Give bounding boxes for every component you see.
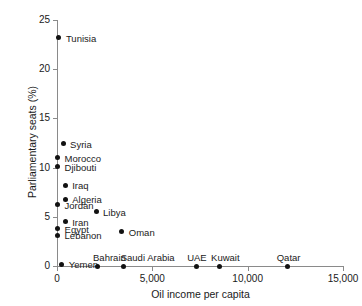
y-tick-mark (53, 20, 57, 21)
x-tick-label: 0 (17, 273, 97, 285)
data-point (194, 264, 199, 269)
y-tick-label: 25 (22, 15, 50, 25)
x-tick-label: 15,000 (303, 273, 362, 285)
data-point (55, 226, 60, 231)
data-point (119, 229, 124, 234)
data-point-label: Saudi Arabia (121, 253, 175, 263)
data-point-label: Kuwait (211, 253, 240, 263)
scatter-chart: 05,00010,00015,000 0510152025 TunisiaSyr… (0, 0, 362, 306)
data-point-label: Lebanon (65, 231, 102, 241)
x-tick-label: 5,000 (112, 273, 192, 285)
data-point (217, 264, 222, 269)
x-tick-label: 10,000 (208, 273, 288, 285)
x-tick-mark (248, 267, 249, 271)
y-tick-mark (53, 266, 57, 267)
data-point-label: Djibouti (65, 163, 97, 173)
y-tick-label: 0 (22, 261, 50, 271)
data-point-label: Qatar (277, 253, 301, 263)
x-axis-line (57, 266, 344, 267)
data-point (63, 183, 68, 188)
x-axis-title: Oil income per capita (57, 288, 344, 300)
data-point (56, 35, 61, 40)
data-point (59, 262, 64, 267)
data-point (285, 264, 290, 269)
data-point (55, 155, 60, 160)
data-point-label: UAE (187, 253, 207, 263)
data-point (55, 233, 60, 238)
data-point (95, 264, 100, 269)
y-tick-mark (53, 69, 57, 70)
y-axis-title: Parliamentary seats (%) (26, 47, 38, 237)
y-tick-mark (53, 118, 57, 119)
x-tick-mark (152, 267, 153, 271)
data-point (121, 264, 126, 269)
data-point (55, 164, 60, 169)
data-point-label: Iraq (72, 181, 88, 191)
data-point-label: Tunisia (66, 34, 96, 44)
data-point (61, 141, 66, 146)
x-tick-mark (57, 267, 58, 271)
y-tick-mark (53, 217, 57, 218)
data-point-label: Syria (70, 140, 92, 150)
data-point-label: Oman (129, 228, 155, 238)
data-point-label: Libya (103, 208, 126, 218)
x-tick-mark (343, 267, 344, 271)
data-point (55, 202, 60, 207)
data-point (94, 209, 99, 214)
data-point-label: Jordan (65, 201, 94, 211)
